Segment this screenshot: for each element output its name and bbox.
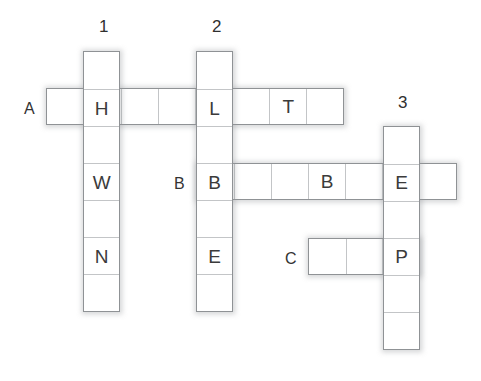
crossword-cell[interactable] [419, 164, 456, 199]
crossword-cell[interactable] [309, 239, 346, 274]
crossword-cell[interactable]: T [269, 89, 306, 124]
crossword-cell[interactable] [384, 275, 419, 312]
column-label-3: 3 [398, 94, 407, 111]
entry-down-3[interactable]: EP [383, 126, 420, 350]
row-label-b: B [174, 176, 185, 192]
crossword-cell[interactable]: E [197, 237, 232, 274]
crossword-cell[interactable]: E [384, 164, 419, 201]
row-label-c: C [285, 251, 297, 267]
crossword-cell[interactable] [197, 200, 232, 237]
crossword-cell[interactable] [84, 274, 119, 311]
crossword-cell[interactable] [346, 239, 383, 274]
crossword-cell[interactable]: B [308, 164, 345, 199]
crossword-cell[interactable] [345, 164, 382, 199]
crossword-cell[interactable] [306, 89, 343, 124]
crossword-cell[interactable] [121, 89, 158, 124]
entry-down-1[interactable]: HWN [83, 51, 120, 312]
crossword-cell[interactable] [232, 89, 269, 124]
crossword-puzzle: HLTBBEPHWNLBEEPABC123 [0, 0, 481, 381]
crossword-cell[interactable] [384, 127, 419, 164]
crossword-cell[interactable]: L [197, 89, 232, 126]
crossword-cell[interactable] [197, 274, 232, 311]
crossword-cell[interactable] [84, 52, 119, 89]
crossword-cell[interactable]: P [384, 238, 419, 275]
crossword-cell[interactable] [271, 164, 308, 199]
crossword-cell[interactable] [84, 126, 119, 163]
crossword-cell[interactable] [234, 164, 271, 199]
crossword-cell[interactable] [158, 89, 195, 124]
crossword-cell[interactable]: W [84, 163, 119, 200]
crossword-cell[interactable] [384, 312, 419, 349]
crossword-cell[interactable]: H [84, 89, 119, 126]
entry-down-2[interactable]: LBE [196, 51, 233, 312]
crossword-cell[interactable] [384, 201, 419, 238]
crossword-cell[interactable]: B [197, 163, 232, 200]
crossword-cell[interactable] [197, 52, 232, 89]
crossword-cell[interactable] [84, 200, 119, 237]
column-label-1: 1 [99, 18, 108, 35]
crossword-cell[interactable] [197, 126, 232, 163]
column-label-2: 2 [212, 18, 221, 35]
row-label-a: A [24, 101, 35, 117]
crossword-cell[interactable] [47, 89, 84, 124]
crossword-cell[interactable]: N [84, 237, 119, 274]
